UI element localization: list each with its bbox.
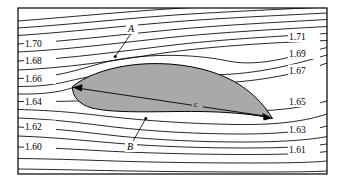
contour-label-right-6: 1.61 (289, 145, 306, 155)
contour-label-left-1: 1.70 (25, 39, 42, 49)
contour-label-right-2: 1.69 (289, 49, 306, 59)
callout-a-point (114, 55, 117, 58)
contour-label-left-2: 1.68 (25, 56, 42, 66)
contour-label-left-6: 1.60 (25, 142, 42, 152)
contour-label-right-5: 1.63 (289, 125, 306, 135)
contour-label-right-4: 1.65 (289, 97, 306, 107)
contour-label-left-3: 1.66 (25, 74, 42, 84)
contour-label-right-3: 1.67 (289, 66, 306, 76)
chord-label: c (194, 100, 198, 109)
callout-b-point (144, 117, 147, 120)
callout-a-label: A (127, 23, 135, 34)
callout-b-label: B (127, 141, 133, 152)
contour-label-right-1: 1.71 (289, 32, 306, 42)
contour-plot-svg: c A B 1.70 1.68 1.66 1.64 1.6 (0, 0, 344, 184)
plot-area: c A B 1.70 1.68 1.66 1.64 1.6 (18, 1, 327, 174)
contour-label-left-5: 1.62 (25, 122, 42, 132)
figure-container: c A B 1.70 1.68 1.66 1.64 1.6 (0, 0, 344, 184)
contour-label-left-4: 1.64 (25, 97, 42, 107)
